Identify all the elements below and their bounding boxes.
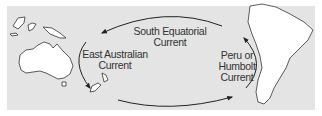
australia: [19, 42, 73, 79]
label-line: Current: [214, 72, 260, 83]
peru-humbolt-label: Peru or Humbolt Current: [214, 50, 260, 83]
south-equatorial-label: South Equatorial Current: [128, 26, 212, 48]
return-current-arrow: [118, 97, 232, 106]
tasmania: [62, 82, 66, 86]
label-line: Current: [80, 60, 150, 71]
label-line: Current: [128, 37, 212, 48]
new-guinea: [43, 27, 66, 38]
currents-map: [0, 0, 322, 116]
new-zealand: [90, 73, 108, 92]
east-australian-label: East Australian Current: [80, 49, 150, 71]
islands-group: [10, 17, 66, 38]
